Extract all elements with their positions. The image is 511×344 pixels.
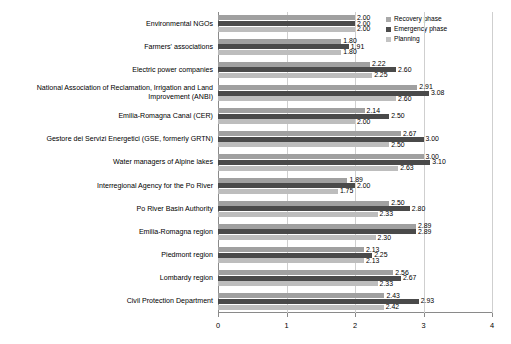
x-axis-tick xyxy=(492,313,493,317)
bar-value-label-planning: 2.60 xyxy=(398,95,411,102)
bar-value-label-emergency-phase: 2.89 xyxy=(418,229,431,236)
bar-emergency-phase xyxy=(218,253,372,258)
bar-recovery-phase xyxy=(218,270,393,275)
bar-chart: Recovery phase Emergency phase Planning … xyxy=(0,0,511,344)
bar-planning xyxy=(218,96,396,101)
bar-value-label-planning: 2.00 xyxy=(357,118,370,125)
chart-category-row: Environmental NGOs2.002.002.00 xyxy=(218,15,492,31)
category-label: Po River Basin Authority xyxy=(1,205,213,214)
category-label: Civil Protection Department xyxy=(1,297,213,306)
x-axis-tick-label: 0 xyxy=(216,321,220,330)
x-axis-tick-label: 3 xyxy=(421,321,425,330)
bar-recovery-phase xyxy=(218,247,364,252)
bar-planning xyxy=(218,142,389,147)
gridline xyxy=(492,12,493,313)
bar-recovery-phase xyxy=(218,15,355,20)
chart-category-row: Gestore dei Servizi Energetici (GSE, for… xyxy=(218,131,492,147)
bar-planning xyxy=(218,50,341,55)
bar-planning xyxy=(218,27,355,32)
bar-value-label-emergency-phase: 2.00 xyxy=(357,182,370,189)
bar-recovery-phase xyxy=(218,154,424,159)
x-axis-tick xyxy=(287,313,288,317)
category-label: Gestore dei Servizi Energetici (GSE, for… xyxy=(1,135,213,144)
bar-planning xyxy=(218,235,376,240)
chart-category-row: Water managers of Alpine lakes3.003.102.… xyxy=(218,154,492,170)
bar-value-label-emergency-phase: 2.67 xyxy=(403,275,416,282)
x-axis-tick-label: 4 xyxy=(490,321,494,330)
bar-recovery-phase xyxy=(218,108,365,113)
x-axis-tick-label: 1 xyxy=(284,321,288,330)
bar-value-label-planning: 2.50 xyxy=(391,141,404,148)
chart-category-row: Piedmont region2.132.252.13 xyxy=(218,247,492,263)
bar-emergency-phase xyxy=(218,276,401,281)
bar-value-label-planning: 2.30 xyxy=(378,234,391,241)
bar-recovery-phase xyxy=(218,131,401,136)
category-label: Water managers of Alpine lakes xyxy=(1,158,213,167)
category-label: Emilia-Romagna region xyxy=(1,228,213,237)
bar-value-label-emergency-phase: 2.80 xyxy=(412,205,425,212)
bar-recovery-phase xyxy=(218,85,417,90)
category-label: Environmental NGOs xyxy=(1,19,213,28)
chart-category-row: National Association of Reclamation, Irr… xyxy=(218,85,492,101)
bar-planning xyxy=(218,305,384,310)
x-axis-tick-label: 2 xyxy=(353,321,357,330)
bar-value-label-emergency-phase: 3.08 xyxy=(431,90,444,97)
bar-emergency-phase xyxy=(218,160,430,165)
bar-planning xyxy=(218,212,378,217)
bar-recovery-phase xyxy=(218,178,347,183)
x-axis-tick xyxy=(355,313,356,317)
bar-value-label-emergency-phase: 2.60 xyxy=(398,66,411,73)
bar-value-label-planning: 1.75 xyxy=(340,188,353,195)
bar-recovery-phase xyxy=(218,39,341,44)
category-label: Lombardy region xyxy=(1,274,213,283)
bar-value-label-emergency-phase: 2.50 xyxy=(391,113,404,120)
bar-value-label-planning: 2.25 xyxy=(374,72,387,79)
bar-planning xyxy=(218,119,355,124)
bar-recovery-phase xyxy=(218,201,389,206)
bar-value-label-planning: 2.33 xyxy=(380,211,393,218)
chart-category-row: Lombardy region2.562.672.33 xyxy=(218,270,492,286)
bar-emergency-phase xyxy=(218,44,349,49)
category-label: Interregional Agency for the Po River xyxy=(1,181,213,190)
bar-planning xyxy=(218,281,378,286)
bar-recovery-phase xyxy=(218,224,416,229)
bar-value-label-planning: 1.80 xyxy=(343,49,356,56)
x-axis-tick xyxy=(424,313,425,317)
bar-planning xyxy=(218,258,364,263)
bar-value-label-emergency-phase: 3.00 xyxy=(426,136,439,143)
bar-emergency-phase xyxy=(218,183,355,188)
category-label: Emilia-Romagna Canal (CER) xyxy=(1,112,213,121)
bar-value-label-planning: 2.00 xyxy=(357,26,370,33)
bar-recovery-phase xyxy=(218,62,370,67)
bar-emergency-phase xyxy=(218,67,396,72)
chart-category-row: Emilia-Romagna region2.892.892.30 xyxy=(218,224,492,240)
plot-area: 01234Environmental NGOs2.002.002.00Farme… xyxy=(218,12,492,313)
bar-planning xyxy=(218,166,398,171)
category-label: Electric power companies xyxy=(1,66,213,75)
bar-value-label-planning: 2.42 xyxy=(386,304,399,311)
bar-recovery-phase xyxy=(218,293,384,298)
chart-category-row: Farmers' associations1.801.911.80 xyxy=(218,39,492,55)
chart-category-row: Po River Basin Authority2.502.802.33 xyxy=(218,201,492,217)
category-label: Farmers' associations xyxy=(1,42,213,51)
bar-value-label-emergency-phase: 3.10 xyxy=(432,159,445,166)
bar-value-label-planning: 2.63 xyxy=(400,165,413,172)
chart-category-row: Interregional Agency for the Po River1.8… xyxy=(218,178,492,194)
bar-planning xyxy=(218,73,372,78)
bar-value-label-emergency-phase: 2.93 xyxy=(421,298,434,305)
bar-value-label-planning: 2.13 xyxy=(366,257,379,264)
x-axis-tick xyxy=(218,313,219,317)
category-label: National Association of Reclamation, Irr… xyxy=(1,84,213,101)
chart-category-row: Civil Protection Department2.432.932.42 xyxy=(218,293,492,309)
chart-category-row: Emilia-Romagna Canal (CER)2.142.502.00 xyxy=(218,108,492,124)
chart-category-row: Electric power companies2.222.602.25 xyxy=(218,62,492,78)
bar-value-label-planning: 2.33 xyxy=(380,280,393,287)
bar-planning xyxy=(218,189,338,194)
bar-emergency-phase xyxy=(218,21,355,26)
category-label: Piedmont region xyxy=(1,251,213,260)
